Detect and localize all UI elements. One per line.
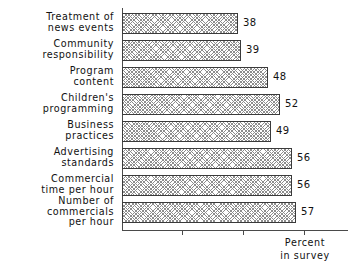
bar-childrens-programming bbox=[122, 94, 280, 115]
bar-value-label: 56 bbox=[297, 152, 311, 164]
category-label-number-of-commercials-per-hour: Number of commercials per hour bbox=[47, 196, 114, 228]
bar-chart: Treatment of news events Community respo… bbox=[0, 0, 357, 271]
bar-program-content bbox=[122, 67, 268, 88]
x-axis-title: Percent in survey bbox=[255, 236, 355, 262]
bar-value-label: 38 bbox=[243, 17, 257, 29]
bar-commercial-time-per-hour bbox=[122, 175, 292, 196]
bar-value-label: 52 bbox=[285, 98, 299, 110]
category-label-treatment-of-news-events: Treatment of news events bbox=[46, 12, 114, 33]
category-label-childrens-programming: Children's programming bbox=[43, 93, 114, 114]
bar-value-label: 48 bbox=[273, 71, 287, 83]
bar-value-label: 56 bbox=[297, 179, 311, 191]
bar-value-label: 39 bbox=[246, 44, 260, 56]
category-label-commercial-time-per-hour: Commercial time per hour bbox=[41, 174, 114, 195]
bar-business-practices bbox=[122, 121, 271, 142]
category-label-program-content: Program content bbox=[70, 66, 114, 87]
bar-value-label: 57 bbox=[301, 206, 315, 218]
x-axis-tick-20 bbox=[182, 231, 183, 235]
plot-area: 38 39 48 52 49 56 56 57 bbox=[122, 8, 348, 231]
bar-number-of-commercials-per-hour bbox=[122, 202, 296, 223]
category-label-community-responsibility: Community responsibility bbox=[42, 39, 114, 60]
bar-value-label: 49 bbox=[276, 125, 290, 137]
bar-community-responsibility bbox=[122, 40, 241, 61]
x-axis-tick-40 bbox=[243, 231, 244, 235]
category-label-advertising-standards: Advertising standards bbox=[54, 147, 114, 168]
bar-treatment-of-news-events bbox=[122, 13, 238, 34]
x-axis-line bbox=[122, 230, 348, 231]
x-axis-tick-60 bbox=[304, 231, 305, 235]
bar-advertising-standards bbox=[122, 148, 292, 169]
category-label-business-practices: Business practices bbox=[65, 120, 114, 141]
category-labels: Treatment of news events Community respo… bbox=[0, 0, 118, 232]
